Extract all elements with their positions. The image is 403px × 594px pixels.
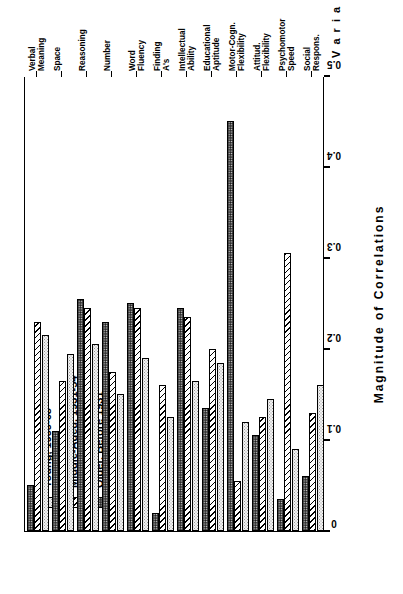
category-label-line2: Fluency: [137, 1, 146, 71]
bar-middle: [59, 381, 66, 531]
bar-group: [150, 77, 175, 531]
bar-group: [175, 77, 200, 531]
category-label-line2: Respons.: [312, 1, 321, 71]
bar-older: [77, 299, 84, 531]
category-label-line1: Finding: [153, 1, 162, 71]
bar-older: [127, 304, 134, 532]
category-label-line1: Word: [128, 1, 137, 71]
bar-older: [277, 499, 284, 531]
category-label-line1: Social: [303, 1, 312, 71]
category-tick: [136, 71, 138, 77]
bar-older: [152, 513, 159, 531]
category-tick: [161, 71, 163, 77]
category-label: PsychomotorSpeed: [278, 1, 296, 71]
bar-group: [25, 77, 50, 531]
bar-older: [52, 431, 59, 531]
category-label-line1: Attitud.: [253, 1, 262, 71]
bar-older: [302, 476, 309, 531]
bar-group: [125, 77, 150, 531]
category-label-line1: Reasoning: [78, 1, 87, 71]
x-tick-label: 0.3: [327, 241, 341, 252]
bar-middle: [234, 481, 241, 531]
bar-middle: [209, 349, 216, 531]
category-label: Number: [103, 1, 112, 71]
x-tick: [324, 257, 330, 259]
category-label-line2: Flexibility: [262, 1, 271, 71]
category-label-line2: Ability: [187, 1, 196, 71]
x-tick-label: 0.2: [327, 332, 341, 343]
bar-young: [267, 399, 274, 531]
bar-group: [250, 77, 275, 531]
category-label: SocialRespons.: [303, 1, 321, 71]
category-label: Space: [53, 1, 62, 71]
bar-young: [92, 344, 99, 531]
bar-older: [252, 435, 259, 531]
bar-middle: [259, 417, 266, 531]
x-tick: [324, 439, 330, 441]
bar-young: [42, 335, 49, 531]
category-tick: [236, 71, 238, 77]
category-tick: [311, 71, 313, 77]
category-tick: [86, 71, 88, 77]
category-label-line1: Verbal: [28, 1, 37, 71]
bar-young: [192, 381, 199, 531]
x-tick-label: 0.1: [327, 423, 341, 434]
bar-middle: [309, 413, 316, 531]
bar-middle: [34, 322, 41, 531]
x-tick: [324, 75, 330, 77]
category-label-line1: Number: [103, 1, 112, 71]
plot-area: [24, 77, 324, 532]
bar-middle: [284, 253, 291, 531]
bar-group: [225, 77, 250, 531]
bar-older: [27, 486, 34, 532]
x-tick: [324, 530, 330, 532]
bars-container: [25, 77, 323, 531]
category-label: FindingA's: [153, 1, 171, 71]
category-label: WordFluency: [128, 1, 146, 71]
bar-group: [200, 77, 225, 531]
category-label-line2: Aptitude: [212, 1, 221, 71]
x-tick: [324, 166, 330, 168]
category-label-line1: Space: [53, 1, 62, 71]
bar-middle: [109, 372, 116, 531]
bar-chart-figure: Young, 1955-68Middle-Aged, 1931-54Older,…: [0, 0, 403, 594]
category-tick: [61, 71, 63, 77]
x-axis-title: Magnitude of Correlations: [372, 124, 386, 484]
bar-young: [142, 358, 149, 531]
bar-young: [292, 449, 299, 531]
category-tick: [111, 71, 113, 77]
category-label-line2: Flexibility: [237, 1, 246, 71]
category-label-line1: Motor-Cogn.: [228, 1, 237, 71]
x-tick-label: 0.4: [327, 150, 341, 161]
bar-group: [100, 77, 125, 531]
bar-group: [275, 77, 300, 531]
category-tick: [186, 71, 188, 77]
category-tick: [286, 71, 288, 77]
category-label: Motor-Cogn.Flexibility: [228, 1, 246, 71]
category-label: VerbalMeaning: [28, 1, 46, 71]
bar-young: [242, 422, 249, 531]
bar-older: [102, 322, 109, 531]
bar-middle: [84, 308, 91, 531]
bar-young: [67, 354, 74, 531]
bar-young: [317, 385, 324, 531]
category-label-line1: Psychomotor: [278, 1, 287, 71]
bar-older: [227, 122, 234, 532]
y-axis-title: V a r i a b l e: [330, 0, 342, 58]
category-tick: [261, 71, 263, 77]
x-tick-label: 0.5: [327, 59, 341, 70]
category-label: Attitud.Flexibility: [253, 1, 271, 71]
bar-middle: [159, 385, 166, 531]
x-tick-label: 0: [331, 518, 337, 529]
category-label: Reasoning: [78, 1, 87, 71]
bar-older: [202, 408, 209, 531]
category-label-line2: A's: [162, 1, 171, 71]
category-tick: [211, 71, 213, 77]
bar-group: [50, 77, 75, 531]
category-label-line2: Meaning: [37, 1, 46, 71]
bar-middle: [184, 317, 191, 531]
category-tick: [36, 71, 38, 77]
bar-young: [167, 417, 174, 531]
bar-young: [117, 395, 124, 532]
bar-group: [300, 77, 325, 531]
